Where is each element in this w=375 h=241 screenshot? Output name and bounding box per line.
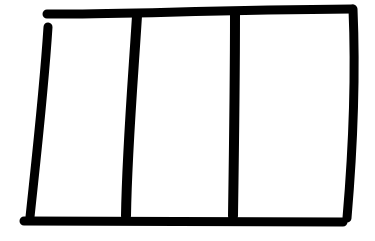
- bottom-border: [24, 221, 343, 222]
- frame: [24, 9, 354, 222]
- top-border: [47, 9, 352, 14]
- three-column-wireframe-sketch: [0, 0, 375, 241]
- divider-1: [126, 16, 137, 216]
- right-border: [347, 9, 354, 218]
- divider-2: [233, 13, 235, 216]
- column-dividers: [126, 13, 235, 216]
- left-border: [30, 27, 48, 217]
